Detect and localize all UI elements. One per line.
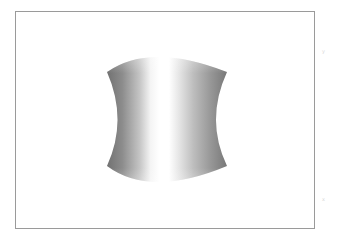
axis-mark-x: x — [322, 196, 325, 202]
hyperboloid-end-highlight — [107, 57, 227, 182]
hyperboloid-figure — [0, 0, 337, 245]
axis-mark-y: y — [322, 48, 325, 54]
